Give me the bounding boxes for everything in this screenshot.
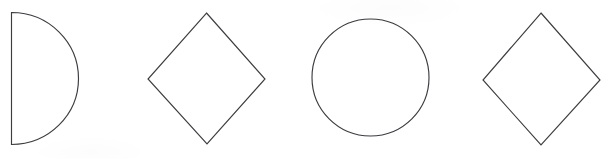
shapes-svg <box>0 0 611 159</box>
diamond-right-shape <box>483 13 600 145</box>
half-circle-shape <box>12 13 79 145</box>
shapes-canvas <box>0 0 611 159</box>
circle-shape <box>312 19 429 136</box>
diamond-left-shape <box>148 13 265 144</box>
